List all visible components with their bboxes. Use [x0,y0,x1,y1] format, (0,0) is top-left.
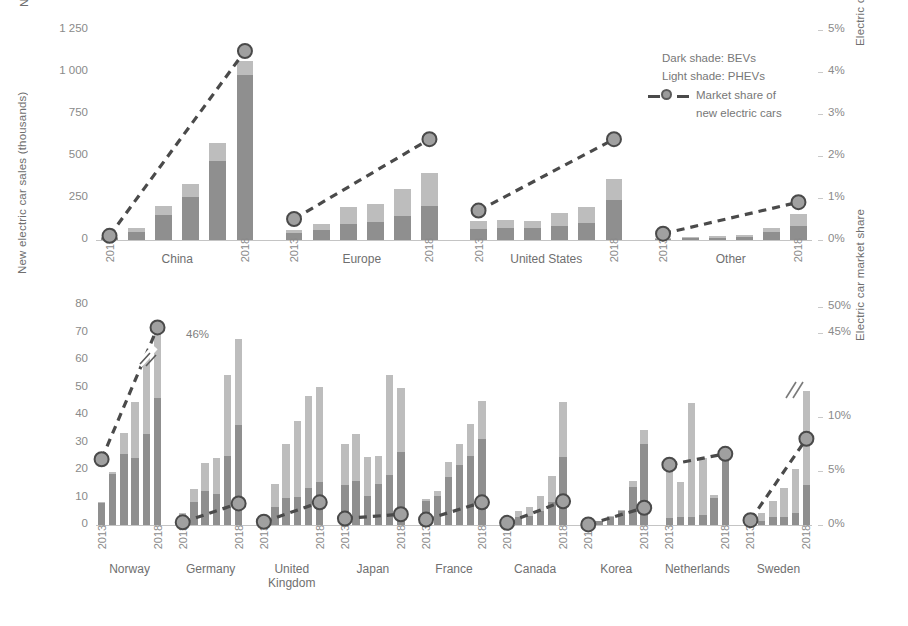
bar-segment-phev [209,143,226,162]
bar-segment-bev [340,224,357,240]
bar-stack [352,434,359,525]
bar-stack [201,463,208,525]
bar-stack [456,444,463,525]
bar-segment-phev [155,206,172,216]
bar-segment-bev [182,197,199,240]
y2-axis-tickmark [818,156,823,157]
bar-stack [294,421,301,526]
bar-segment-phev [375,456,382,484]
bar-segment-bev [699,515,706,525]
bar-stack [792,469,799,525]
bar-segment-bev [618,511,625,525]
bar-segment-phev [688,403,695,517]
bar-segment-phev [341,444,348,485]
x-axis-year-label: 2013 [663,522,675,552]
bar-segment-bev [294,497,301,525]
bar-segment-bev [606,200,623,240]
bar-segment-phev [551,213,568,225]
bar-stack [364,457,371,525]
y2-axis-tick-label: 1% [828,190,845,202]
x-axis-year-label: 2018 [314,522,326,552]
bar-segment-phev [578,207,595,223]
bar-stack [282,444,289,525]
x-axis-group-label: Germany [177,562,244,576]
bar-stack [515,511,522,525]
bar-stack [375,456,382,525]
y2-axis-tick-label: 50% [828,299,851,311]
bar-segment-bev [682,238,699,240]
bar-stack [237,61,254,240]
bar-segment-phev [456,444,463,465]
bar-stack [710,495,717,525]
bar-segment-phev [131,402,138,459]
bar-segment-bev [201,491,208,525]
x-axis-baseline [96,240,812,241]
x-axis-year-label: 2018 [395,522,407,552]
bar-segment-bev [364,496,371,525]
bar-segment-bev [515,517,522,525]
bar-segment-phev [445,462,452,478]
bar-segment-phev [526,507,533,516]
bar-stack [316,387,323,525]
bar-segment-bev [341,485,348,525]
bar-stack [213,458,220,525]
legend-phev-label: Light shade: PHEVs [662,70,765,82]
x-axis-group-label: Canada [502,562,569,576]
x-axis-group-label: Norway [96,562,163,576]
x-axis-year-label: 2018 [476,522,488,552]
bar-stack [618,510,625,525]
x-axis-year-label: 2018 [423,235,435,265]
bar-segment-bev [155,215,172,240]
y2-axis-tick-label: 2% [828,148,845,160]
bar-segment-bev [467,456,474,525]
bar-segment-bev [367,222,384,240]
legend-market-share-label-2: new electric cars [696,107,782,119]
bar-segment-bev [607,517,614,525]
y2-axis-tick-label: 5% [828,463,845,475]
y-axis-tick-label: 0 [36,517,88,529]
bar-segment-phev [640,430,647,443]
bar-segment-bev [497,228,514,240]
bar-stack [548,476,555,525]
bar-stack [305,396,312,525]
bar-segment-bev [271,507,278,525]
bar-segment-phev [548,476,555,502]
bar-segment-phev [237,61,254,75]
bar-segment-phev [421,173,438,205]
bar-stack [524,221,541,240]
x-axis-year-label: 2013 [177,522,189,552]
bar-stack [607,516,614,525]
x-axis-year-label: 2018 [719,522,731,552]
bar-segment-bev [722,458,729,525]
bar-stack [666,463,673,525]
x-axis-year-label: 2018 [800,522,812,552]
bar-segment-phev [316,387,323,482]
bar-segment-phev [154,326,161,398]
bottom-y-axis-title: New electric car sales (thousands) [16,65,28,300]
bar-stack [596,521,603,525]
bar-segment-phev [235,339,242,425]
bar-stack [386,375,393,525]
y2-axis-tick-label: 0% [828,232,845,244]
bar-segment-bev [736,237,753,240]
bar-segment-bev [688,517,695,525]
bar-stack [421,173,438,240]
x-axis-year-label: 2013 [288,235,300,265]
bar-segment-phev [294,421,301,497]
bar-segment-bev [154,398,161,525]
bar-segment-bev [213,494,220,525]
bar-segment-bev [352,481,359,525]
bar-segment-phev [224,375,231,456]
bar-segment-phev [769,501,776,517]
bar-segment-bev [537,511,544,525]
x-axis-year-label: 2013 [96,522,108,552]
legend-bev-label: Dark shade: BEVs [662,52,756,64]
bar-stack [397,388,404,526]
x-axis-group-label: France [420,562,487,576]
bar-stack [559,402,566,525]
x-axis-group-label: Netherlands [664,562,731,576]
bar-stack [688,403,695,525]
bar-segment-bev [394,216,411,240]
bar-segment-phev [537,496,544,510]
y-axis-tick-label: 1 250 [36,22,88,34]
